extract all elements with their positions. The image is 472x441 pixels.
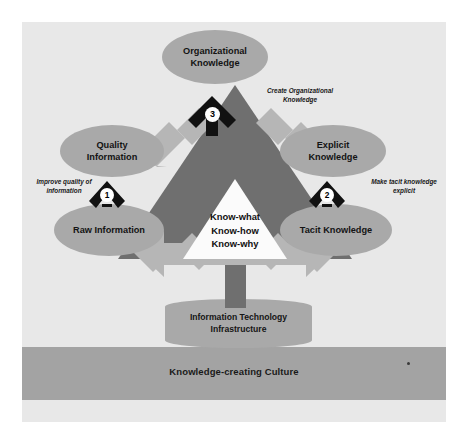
node-organizational-knowledge[interactable]: OrganizationalKnowledge [162, 30, 268, 84]
it-infrastructure-label: Information TechnologyInfrastructure [165, 311, 312, 335]
trunk-stem [225, 254, 246, 308]
core-line-know-why: Know-why [183, 237, 287, 251]
node-explicit-knowledge[interactable]: ExplicitKnowledge [280, 125, 386, 177]
node-raw-information[interactable]: Raw Information [54, 204, 164, 256]
core-line-know-how: Know-how [183, 224, 287, 238]
annotation-make-tacit-explicit: Make tacit knowledgeexplicit [362, 178, 446, 195]
annotation-create-organizational-knowledge: Create OrganizationalKnowledge [250, 87, 350, 104]
step-number-2: 2 [320, 188, 334, 202]
figure-canvas: Knowledge-creating Culture Information T… [0, 0, 472, 441]
step-marker-2: 2 [307, 179, 347, 209]
knowledge-model-diagram: Knowledge-creating Culture Information T… [22, 22, 446, 422]
core-knowledge-text: Know-what Know-how Know-why [183, 210, 287, 251]
step-number-3: 3 [205, 107, 220, 122]
core-line-know-what: Know-what [183, 210, 287, 224]
step-marker-1: 1 [87, 179, 127, 209]
step-marker-3: 3 [185, 94, 239, 136]
node-tacit-knowledge[interactable]: Tacit Knowledge [280, 204, 392, 256]
step-number-1: 1 [100, 188, 114, 202]
stray-dot-artifact [407, 362, 410, 365]
node-quality-information[interactable]: QualityInformation [60, 125, 164, 177]
culture-label: Knowledge-creating Culture [22, 366, 446, 377]
